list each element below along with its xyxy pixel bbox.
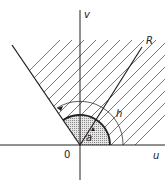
- u-axis-label: u: [153, 151, 159, 161]
- boundary-line: [12, 45, 80, 145]
- ray-label: R: [146, 36, 153, 46]
- ray-R: [80, 47, 142, 145]
- angle-a-label: a: [86, 133, 92, 143]
- v-axis-label: v: [84, 10, 90, 20]
- origin-label: 0: [64, 150, 70, 160]
- diagram-graphic: [0, 0, 165, 180]
- diagram: v u 0 R h a: [0, 0, 165, 180]
- arc-h-label: h: [116, 109, 122, 119]
